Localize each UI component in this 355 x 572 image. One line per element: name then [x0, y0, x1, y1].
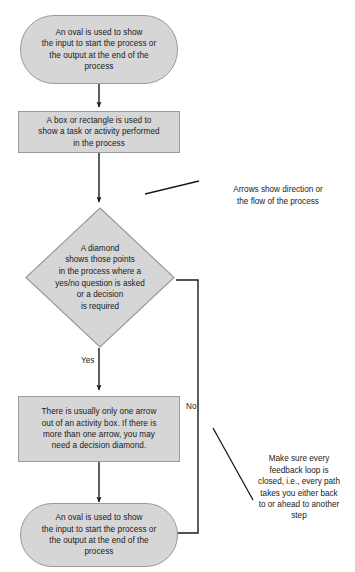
annotation-feedback-note-text: Make sure every feedback loop is closed,…	[258, 454, 340, 520]
node-start-oval-label: An oval is used to show the input to sta…	[34, 27, 165, 73]
node-process-rectangle[interactable]: A box or rectangle is used to show a tas…	[18, 111, 180, 153]
edge-label-no-text: No	[186, 402, 196, 411]
edge-label-no: No	[185, 402, 197, 412]
annotation-arrows-note-text: Arrows show direction or the flow of the…	[233, 185, 323, 205]
edge-label-yes: Yes	[80, 356, 95, 366]
node-activity-rectangle-label: There is usually only one arrow out of a…	[34, 406, 165, 452]
node-activity-rectangle[interactable]: There is usually only one arrow out of a…	[18, 396, 180, 462]
annotation-arrows-note: Arrows show direction or the flow of the…	[203, 173, 353, 207]
edge-label-yes-text: Yes	[81, 356, 94, 365]
node-end-oval[interactable]: An oval is used to show the input to sta…	[20, 503, 178, 567]
annotation-feedback-note: Make sure every feedback loop is closed,…	[245, 442, 353, 522]
node-process-rectangle-label: A box or rectangle is used to show a tas…	[30, 115, 167, 149]
node-start-oval[interactable]: An oval is used to show the input to sta…	[20, 15, 178, 84]
leader-line-arrows-note	[145, 181, 199, 194]
node-decision-diamond-label: A diamond shows those points in the proc…	[25, 207, 175, 348]
node-end-oval-label: An oval is used to show the input to sta…	[34, 512, 165, 558]
node-decision-diamond[interactable]: A diamond shows those points in the proc…	[25, 207, 175, 348]
flowchart-canvas: An oval is used to show the input to sta…	[0, 0, 355, 572]
